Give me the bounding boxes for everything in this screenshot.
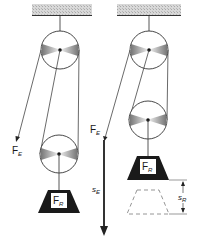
right-effort-label: FE bbox=[90, 124, 101, 136]
left-right-rope bbox=[78, 50, 79, 154]
left-effort-rope bbox=[18, 50, 41, 138]
right-load-weight: FR bbox=[127, 156, 169, 180]
right-effort-distance-label: sE bbox=[92, 185, 101, 195]
right-setup: FE sE FR bbox=[90, 4, 191, 236]
right-right-rope bbox=[167, 50, 168, 120]
pulley-diagram: FE FR bbox=[0, 0, 201, 245]
left-ceiling bbox=[32, 4, 92, 15]
right-load-distance-arrowhead-down bbox=[181, 208, 185, 213]
left-effort-label: FE bbox=[12, 145, 23, 157]
right-effort-rope bbox=[105, 50, 130, 138]
left-effort-arrowhead bbox=[16, 136, 21, 142]
left-load-weight: FR bbox=[38, 190, 80, 213]
right-load-distance-arrowhead-up bbox=[181, 181, 185, 186]
right-original-load-outline bbox=[127, 190, 169, 214]
right-ceiling bbox=[117, 4, 181, 15]
left-setup: FE FR bbox=[12, 4, 92, 213]
right-effort-distance-arrowhead bbox=[100, 226, 108, 236]
